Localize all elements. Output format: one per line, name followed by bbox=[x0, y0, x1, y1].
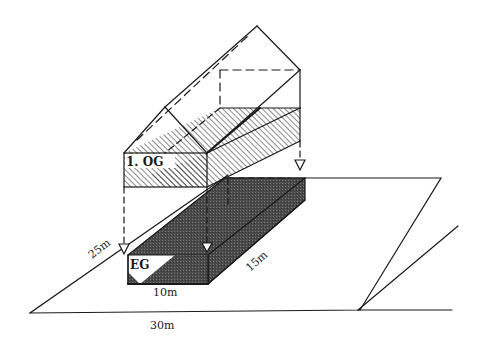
arrow-down-icon bbox=[295, 160, 305, 170]
building-plot-diagram: 1. OG EG 10m 30m 25m 15m bbox=[0, 0, 481, 348]
arrow-down-icon bbox=[119, 244, 129, 254]
neighbour-plot bbox=[358, 226, 458, 310]
dim-building-width: 10m bbox=[153, 286, 178, 299]
dim-building-depth: 15m bbox=[243, 248, 270, 274]
ground-floor-box bbox=[128, 178, 305, 284]
floor-label-eg: EG bbox=[130, 258, 149, 272]
floor-label-1og: 1. OG bbox=[126, 155, 163, 169]
dim-plot-width: 30m bbox=[150, 319, 175, 332]
first-floor-box bbox=[124, 108, 300, 187]
